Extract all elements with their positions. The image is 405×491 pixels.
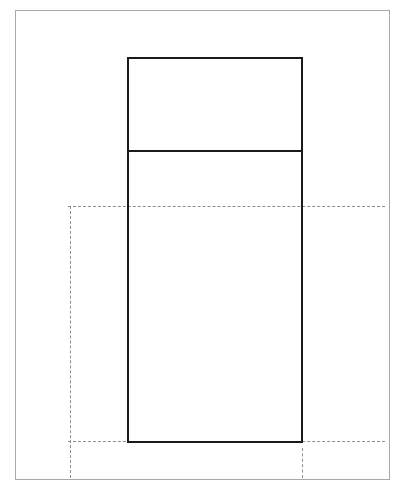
left-extension-line (70, 206, 71, 478)
right-extension-line (302, 448, 303, 478)
figure-canvas (0, 0, 405, 491)
body-divider-line (127, 150, 303, 152)
body-outline-rectangle (127, 57, 303, 443)
